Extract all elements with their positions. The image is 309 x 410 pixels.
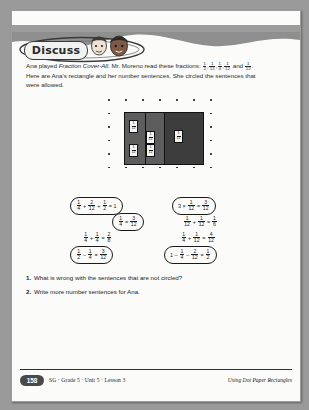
- rectangle-midline: [164, 113, 165, 164]
- fraction-3-12: 312: [130, 216, 137, 228]
- discuss-label: Discuss: [32, 44, 80, 57]
- question-1: 1. What is wrong with the sentences that…: [34, 273, 284, 282]
- cell-fraction-1: 112: [132, 122, 136, 130]
- operator: +: [81, 203, 87, 209]
- number-sentence-circled: 1 − 14 − 212 = 12: [164, 246, 217, 264]
- number-sentence: 112 + 112 = 16: [178, 214, 222, 230]
- footer-lesson-title: Using Dot Paper Rectangles: [228, 377, 292, 383]
- fraction-1-12: 112: [193, 232, 200, 244]
- question-1-text: What is wrong with the sentences that ar…: [34, 274, 182, 281]
- fraction-2-12: 212: [191, 249, 198, 261]
- grid-dot: [125, 99, 127, 101]
- grid-dot: [108, 140, 110, 142]
- rect-label-cell-5: 112: [174, 130, 183, 143]
- discuss-banner: Discuss: [12, 22, 300, 56]
- grid-dot: [108, 126, 110, 128]
- operator: −: [81, 252, 87, 258]
- operator: +: [96, 203, 102, 209]
- fraction-1-2: 12: [206, 249, 210, 261]
- intro-and: and: [231, 62, 245, 69]
- dot-paper-diagram: 112 112 112 112 112: [108, 99, 220, 179]
- operator: =: [123, 219, 129, 225]
- cell-fraction-4: 112: [149, 146, 153, 154]
- intro-line-2: Here are Ana's rectangle and her number …: [26, 71, 288, 80]
- fraction-3-12: 312: [100, 249, 107, 261]
- paper-sheet: Discuss Ana played Fraction Cover-All. M…: [11, 10, 301, 402]
- page-number: 158: [27, 377, 38, 384]
- fraction-2-8: 28: [107, 232, 111, 244]
- grid-dot: [108, 153, 110, 155]
- operator: =: [93, 252, 99, 258]
- number-sentences-group: 14 + 212 + 12 = 114 = 31214 + 14 = 2812 …: [26, 197, 288, 269]
- question-2: 2. Write more number sentences for Ana.: [34, 287, 284, 296]
- fraction-1-4: 14: [95, 232, 99, 244]
- grid-dot: [159, 99, 161, 101]
- rect-label-cell-4: 112: [146, 144, 155, 157]
- fraction-1-12: 112: [198, 216, 205, 228]
- number-sentence-circled: 14 = 312: [112, 213, 144, 231]
- fraction-2-12: 212: [88, 200, 95, 212]
- rect-label-cell-3: 112: [129, 144, 138, 157]
- footer-rule: [20, 369, 292, 370]
- grid-dot: [210, 113, 212, 115]
- discuss-label-pill: Discuss: [24, 41, 88, 60]
- fraction-1-12: 112: [188, 200, 195, 212]
- grid-dot: [210, 167, 212, 169]
- operator: ×: [181, 203, 187, 209]
- operator: +: [191, 219, 197, 225]
- operator: −: [185, 252, 191, 258]
- grid-dot: [193, 167, 195, 169]
- number-sentence: 14 + 112 = 412: [176, 230, 220, 246]
- cell-fraction-5: 112: [177, 132, 181, 140]
- operator: =: [206, 219, 212, 225]
- grid-dot: [210, 140, 212, 142]
- intro-text-b: . Mr. Moreno read these fractions:: [108, 62, 202, 69]
- fraction-1-6: 16: [212, 216, 216, 228]
- number-sentence-circled: 12 − 14 = 312: [70, 246, 113, 264]
- operator: =: [199, 252, 205, 258]
- grid-dot: [159, 167, 161, 169]
- cell-fraction-2: 112: [149, 133, 153, 141]
- grid-dot: [193, 99, 195, 101]
- grid-dot: [125, 167, 127, 169]
- number-sentence-circled: 14 + 212 + 12 = 1: [70, 197, 123, 215]
- worksheet-page: Discuss Ana played Fraction Cover-All. M…: [0, 0, 309, 410]
- grid-dot: [210, 153, 212, 155]
- grid-dot: [142, 167, 144, 169]
- fraction-4-12: 412: [208, 232, 215, 244]
- girl-face-icon: [107, 32, 131, 58]
- page-number-badge: 158: [20, 375, 44, 386]
- question-2-number: 2.: [26, 287, 31, 296]
- fraction-3-12: 312: [202, 200, 209, 212]
- grid-dot: [108, 113, 110, 115]
- operator: +: [88, 235, 94, 241]
- operator: +: [186, 235, 192, 241]
- operator: =: [195, 203, 201, 209]
- cell-fraction-3: 112: [132, 146, 136, 154]
- operator: =: [201, 235, 207, 241]
- question-1-number: 1.: [26, 273, 31, 282]
- intro-period: .: [252, 62, 254, 69]
- grid-dot: [210, 126, 212, 128]
- grid-dot: [142, 99, 144, 101]
- term: 1: [114, 203, 117, 209]
- operator: −: [173, 252, 179, 258]
- question-2-text: Write more number sentences for Ana.: [34, 288, 140, 295]
- rect-label-cell-1: 112: [129, 120, 138, 133]
- intro-line-3: were allowed.: [26, 80, 288, 89]
- fraction-1-12: 112: [184, 216, 191, 228]
- number-sentence: 14 + 14 = 28: [78, 230, 117, 246]
- number-sentence-circled: 3 × 112 = 312: [172, 197, 216, 215]
- grid-dot: [108, 99, 110, 101]
- anas-rectangle: 112 112 112 112 112: [124, 112, 204, 165]
- footer-breadcrumb: SG · Grade 5 · Unit 5 · Lesson 3: [49, 377, 125, 383]
- grid-dot: [108, 167, 110, 169]
- game-title: Fraction Cover-All: [59, 62, 108, 69]
- grid-dot: [210, 99, 212, 101]
- grid-dot: [176, 167, 178, 169]
- rect-label-cell-2: 112: [146, 131, 155, 144]
- fraction-1-4: 14: [180, 249, 184, 261]
- intro-text-a: Ana played: [26, 62, 59, 69]
- grid-dot: [176, 99, 178, 101]
- fraction-1-4: 14: [88, 249, 92, 261]
